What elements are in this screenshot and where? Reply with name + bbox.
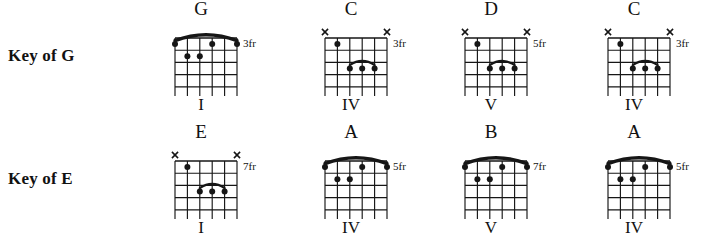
chord-row-key-of-g: Key of G GI3frCIV3frDV5frCIV3fr xyxy=(0,0,714,123)
muted-string-x-icon xyxy=(462,29,468,35)
chord-diagram[interactable]: AIV5fr xyxy=(315,123,435,246)
finger-dot xyxy=(474,176,480,182)
finger-dot xyxy=(630,176,636,182)
fret-position-label: 3fr xyxy=(676,38,689,49)
finger-dot xyxy=(667,164,673,170)
finger-dot xyxy=(487,176,493,182)
chord-roman-numeral: V xyxy=(455,95,527,115)
finger-dot xyxy=(524,164,530,170)
finger-dot xyxy=(642,66,648,72)
fret-position-label: 3fr xyxy=(243,38,256,49)
chord-roman-numeral: I xyxy=(165,218,237,238)
finger-dot xyxy=(234,41,240,47)
finger-dot xyxy=(184,53,190,59)
finger-dot xyxy=(359,164,365,170)
finger-dot xyxy=(359,66,365,72)
finger-dot xyxy=(462,164,468,170)
fret-position-label: 7fr xyxy=(533,161,546,172)
fretboard-grid: 5fr xyxy=(315,145,419,217)
muted-string-x-icon xyxy=(322,29,328,35)
muted-string-x-icon xyxy=(234,152,240,158)
chord-diagram[interactable]: BV7fr xyxy=(455,123,575,246)
key-label-row-1: Key of G xyxy=(8,46,138,66)
fretboard-grid: 5fr xyxy=(598,145,702,217)
fretboard-grid: 3fr xyxy=(165,22,269,94)
finger-dot xyxy=(322,164,328,170)
fretboard-grid: 7fr xyxy=(165,145,269,217)
finger-dot xyxy=(184,164,190,170)
chord-name: G xyxy=(165,0,237,20)
finger-dot xyxy=(197,53,203,59)
finger-dot xyxy=(334,41,340,47)
finger-dot xyxy=(347,66,353,72)
fretboard-grid: 5fr xyxy=(455,22,559,94)
chord-diagram[interactable]: CIV3fr xyxy=(315,0,435,123)
finger-dot xyxy=(642,164,648,170)
finger-dot xyxy=(347,176,353,182)
chord-name: C xyxy=(315,0,387,20)
chord-diagram[interactable]: DV5fr xyxy=(455,0,575,123)
fret-position-label: 5fr xyxy=(533,38,546,49)
fretboard-grid: 3fr xyxy=(315,22,419,94)
finger-dot xyxy=(474,41,480,47)
finger-dot xyxy=(655,66,661,72)
chord-roman-numeral: IV xyxy=(598,95,670,115)
fretboard-grid: 7fr xyxy=(455,145,559,217)
chord-roman-numeral: IV xyxy=(598,218,670,238)
finger-dot xyxy=(172,41,178,47)
chord-roman-numeral: V xyxy=(455,218,527,238)
muted-string-x-icon xyxy=(667,29,673,35)
finger-dot xyxy=(334,176,340,182)
finger-dot xyxy=(209,189,215,195)
fret-position-label: 7fr xyxy=(243,161,256,172)
chord-name: D xyxy=(455,0,527,20)
chord-name: B xyxy=(455,121,527,143)
finger-dot xyxy=(372,66,378,72)
finger-dot xyxy=(617,41,623,47)
chord-roman-numeral: IV xyxy=(315,95,387,115)
finger-dot xyxy=(222,189,228,195)
muted-string-x-icon xyxy=(384,29,390,35)
chord-roman-numeral: IV xyxy=(315,218,387,238)
fret-position-label: 5fr xyxy=(676,161,689,172)
key-label-row-2: Key of E xyxy=(8,169,138,189)
chord-name: A xyxy=(598,121,670,143)
finger-dot xyxy=(630,66,636,72)
muted-string-x-icon xyxy=(524,29,530,35)
muted-string-x-icon xyxy=(172,152,178,158)
finger-dot xyxy=(617,176,623,182)
chord-diagram[interactable]: EI7fr xyxy=(165,123,285,246)
chord-chart-sheet: Key of G GI3frCIV3frDV5frCIV3fr Key of E… xyxy=(0,0,714,246)
finger-dot xyxy=(499,164,505,170)
fret-position-label: 3fr xyxy=(393,38,406,49)
chord-diagram[interactable]: GI3fr xyxy=(165,0,285,123)
finger-dot xyxy=(487,66,493,72)
chord-row-key-of-e: Key of E EI7frAIV5frBV7frAIV5fr xyxy=(0,123,714,246)
finger-dot xyxy=(499,66,505,72)
chord-name: C xyxy=(598,0,670,20)
fret-position-label: 5fr xyxy=(393,161,406,172)
chord-name: E xyxy=(165,121,237,143)
finger-dot xyxy=(384,164,390,170)
chord-roman-numeral: I xyxy=(165,95,237,115)
chord-diagram[interactable]: CIV3fr xyxy=(598,0,714,123)
finger-dot xyxy=(605,164,611,170)
chord-diagram[interactable]: AIV5fr xyxy=(598,123,714,246)
finger-dot xyxy=(197,189,203,195)
finger-dot xyxy=(512,66,518,72)
finger-dot xyxy=(209,41,215,47)
fretboard-grid: 3fr xyxy=(598,22,702,94)
muted-string-x-icon xyxy=(605,29,611,35)
chord-name: A xyxy=(315,121,387,143)
